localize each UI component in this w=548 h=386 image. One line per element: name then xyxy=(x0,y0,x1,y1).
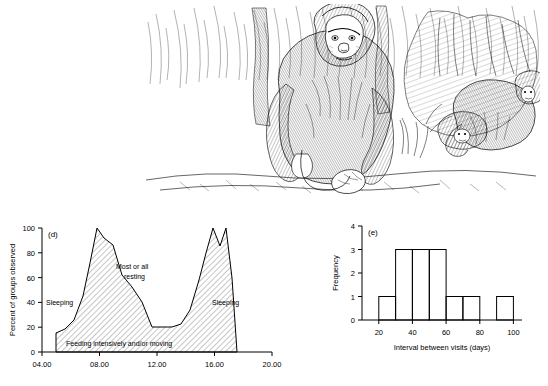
chart-d-xticklabel-0: 04.00 xyxy=(33,360,52,369)
chart-d-y-ticks xyxy=(38,228,42,352)
chart-e-yticklabel-1: 1 xyxy=(351,293,355,302)
chart-d-xticklabel-1: 08.00 xyxy=(90,360,109,369)
chart-e-ylabel: Frequency xyxy=(331,255,340,291)
chart-d-container: 0 20 40 60 80 100 04.00 08.00 12.00 16.0… xyxy=(4,216,294,384)
chart-d-yticklabel-3: 60 xyxy=(27,274,35,283)
illustration-svg xyxy=(140,4,540,200)
chart-e-container: 0 1 2 3 4 20 40 60 80 100 xyxy=(326,216,546,366)
chart-e-y-ticks xyxy=(358,226,362,320)
chart-e-bar-0 xyxy=(379,297,396,321)
chart-d-yticklabel-5: 100 xyxy=(22,224,35,233)
chart-e-yticklabel-2: 2 xyxy=(351,269,355,278)
chart-e-x-ticklabels: 20 40 60 80 100 xyxy=(375,328,520,337)
figure-page: 0 20 40 60 80 100 04.00 08.00 12.00 16.0… xyxy=(0,0,548,386)
chart-d-annotation-sleeping-right: Sleeping xyxy=(212,299,239,307)
chart-e-xticklabel-2: 60 xyxy=(442,328,450,337)
chart-d-xticklabel-4: 20.00 xyxy=(263,360,282,369)
chart-e-panel-label: (e) xyxy=(368,228,378,237)
chart-e-y-ticklabels: 0 1 2 3 4 xyxy=(351,222,355,325)
chart-e-xticklabel-3: 80 xyxy=(476,328,484,337)
chart-e-xticklabel-4: 100 xyxy=(507,328,520,337)
chart-e-bar-2 xyxy=(412,250,429,321)
chart-e-bar-3 xyxy=(429,250,446,321)
chart-d-annotation-sleeping-left: Sleeping xyxy=(46,299,73,307)
chart-e-bar-4 xyxy=(446,297,463,321)
silverback-gorilla xyxy=(266,4,394,194)
chart-e-bar-1 xyxy=(396,250,413,321)
chart-e-bars xyxy=(379,250,514,321)
chart-e-yticklabel-0: 0 xyxy=(351,316,355,325)
chart-e-bar-5 xyxy=(463,297,480,321)
chart-e-bar-6 xyxy=(497,297,514,321)
gorilla-group-illustration xyxy=(140,4,540,200)
chart-e-xlabel: Interval between visits (days) xyxy=(394,343,491,352)
chart-d-xticklabel-3: 16.00 xyxy=(205,360,224,369)
chart-d-x-ticklabels: 04.00 08.00 12.00 16.00 20.00 xyxy=(33,360,282,369)
chart-d-area xyxy=(56,228,237,352)
chart-e-yticklabel-3: 3 xyxy=(351,246,355,255)
chart-d-yticklabel-1: 20 xyxy=(27,323,35,332)
chart-d-annotation-feeding: Feeding intensively and/or moving xyxy=(66,340,172,348)
chart-d-xticklabel-2: 12.00 xyxy=(148,360,167,369)
chart-d-panel-label: (d) xyxy=(48,230,58,239)
infant-gorilla xyxy=(438,112,487,150)
chart-e-xticklabel-1: 40 xyxy=(408,328,416,337)
chart-d-x-ticks xyxy=(42,352,272,356)
chart-d-svg: 0 20 40 60 80 100 04.00 08.00 12.00 16.0… xyxy=(4,216,294,384)
chart-e-svg: 0 1 2 3 4 20 40 60 80 100 xyxy=(326,216,546,366)
chart-d-annotation-most-or-all: Most or all xyxy=(116,263,149,270)
chart-d-ylabel: Percent of groups observed xyxy=(8,244,17,336)
chart-d-annotation-resting: resting xyxy=(124,273,145,281)
chart-d-yticklabel-2: 40 xyxy=(27,298,35,307)
chart-d-yticklabel-4: 80 xyxy=(27,249,35,258)
chart-e-x-ticks xyxy=(379,320,514,324)
chart-d-y-ticklabels: 0 20 40 60 80 100 xyxy=(22,224,35,357)
chart-d-yticklabel-0: 0 xyxy=(31,348,35,357)
chart-e-xticklabel-0: 20 xyxy=(375,328,383,337)
chart-e-yticklabel-4: 4 xyxy=(351,222,355,231)
